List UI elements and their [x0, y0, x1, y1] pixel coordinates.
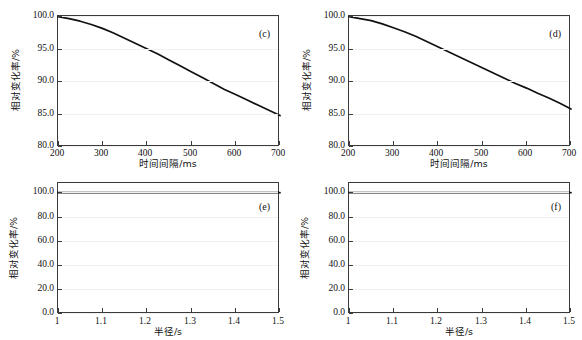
ytick-label: 20.0 [18, 283, 54, 293]
xtick-label: 1.4 [228, 316, 240, 326]
xtick-label: 1.4 [519, 316, 531, 326]
gridline-y [58, 313, 278, 314]
tick-y [58, 81, 62, 82]
gridline-y [349, 146, 569, 147]
gridline-y [349, 241, 569, 242]
xtick-label: 200 [50, 148, 64, 158]
ytick-label: 90.0 [22, 75, 54, 85]
figure-canvas: (c) 100.0 95.0 90.0 85.0 80.0 200 300 40… [0, 0, 582, 340]
gridline-y [58, 265, 278, 266]
tick-y [58, 265, 62, 266]
tick-y [349, 16, 353, 17]
yaxis-title-c: 相对变化率/% [10, 49, 21, 111]
tick-y [58, 16, 62, 17]
tick-x [191, 308, 192, 312]
ytick-label: 20.0 [309, 283, 345, 293]
panel-tag-d: (d) [549, 28, 561, 39]
tick-y [58, 49, 62, 50]
ytick-label: 100.0 [18, 186, 54, 196]
subplot-c: (c) 100.0 95.0 90.0 85.0 80.0 200 300 40… [0, 0, 291, 170]
xtick-label: 700 [271, 148, 285, 158]
xaxis-title-e: 半径/s [154, 326, 182, 337]
plot-frame-f: (f) [348, 182, 570, 313]
tick-x [279, 141, 280, 145]
tick-x [146, 141, 147, 145]
xtick-label: 500 [183, 148, 197, 158]
tick-y [58, 289, 62, 290]
tick-y [349, 313, 353, 314]
plot-frame-c: (c) [57, 15, 279, 146]
xtick-label: 300 [385, 148, 399, 158]
ytick-label: 95.0 [22, 43, 54, 53]
ytick-label: 85.0 [313, 108, 345, 118]
tick-y [349, 217, 353, 218]
tick-x [235, 308, 236, 312]
gridline-y [58, 217, 278, 218]
gridline-y [349, 265, 569, 266]
ytick-label: 95.0 [313, 43, 345, 53]
tick-x [482, 308, 483, 312]
xtick-label: 1.1 [386, 316, 398, 326]
tick-x [279, 308, 280, 312]
tick-x [102, 308, 103, 312]
ytick-label: 80.0 [309, 211, 345, 221]
subplot-d: (d) 100.0 95.0 90.0 85.0 80.0 200 300 40… [291, 0, 582, 170]
tick-x [526, 141, 527, 145]
xaxis-title-c: 时间间隔/ms [139, 158, 196, 169]
subplot-e: (e) 100.0 80.0 60.0 40.0 20.0 0.0 1 1.1 … [0, 170, 291, 340]
yaxis-title-f: 相对变化率/% [299, 217, 310, 279]
tick-x [393, 141, 394, 145]
gridline-y [349, 192, 569, 193]
xtick-label: 1.2 [139, 316, 151, 326]
gridline-y [349, 217, 569, 218]
gridline-y [58, 16, 278, 17]
ytick-label: 0.0 [309, 307, 345, 317]
tick-x [437, 141, 438, 145]
tick-x [102, 141, 103, 145]
tick-y [349, 81, 353, 82]
tick-y [349, 114, 353, 115]
ytick-label: 40.0 [309, 259, 345, 269]
gridline-y [349, 313, 569, 314]
xtick-label: 1.2 [430, 316, 442, 326]
yaxis-title-e: 相对变化率/% [8, 217, 19, 279]
ytick-label: 85.0 [22, 108, 54, 118]
curve-f [349, 183, 571, 314]
tick-x [191, 141, 192, 145]
tick-x [235, 141, 236, 145]
ytick-label: 100.0 [309, 186, 345, 196]
xaxis-title-d: 时间间隔/ms [430, 158, 487, 169]
ytick-label: 90.0 [313, 75, 345, 85]
tick-x [570, 141, 571, 145]
panel-tag-f: (f) [551, 201, 561, 212]
tick-y [58, 217, 62, 218]
tick-x [570, 308, 571, 312]
xtick-label: 400 [138, 148, 152, 158]
plot-frame-e: (e) [57, 182, 279, 313]
gridline-y [58, 146, 278, 147]
gridline-y [349, 81, 569, 82]
tick-y [349, 241, 353, 242]
tick-x [58, 141, 59, 145]
ytick-label: 40.0 [18, 259, 54, 269]
tick-y [58, 313, 62, 314]
yaxis-title-d: 相对变化率/% [301, 49, 312, 111]
xtick-label: 1.3 [475, 316, 487, 326]
xaxis-title-f: 半径/s [445, 326, 473, 337]
tick-y [58, 192, 62, 193]
gridline-y [349, 289, 569, 290]
curve-e [58, 183, 280, 314]
gridline-y [58, 49, 278, 50]
tick-y [349, 146, 353, 147]
ytick-label: 60.0 [309, 235, 345, 245]
gridline-y [58, 114, 278, 115]
gridline-y [349, 114, 569, 115]
xtick-label: 1.5 [563, 316, 575, 326]
panel-tag-e: (e) [259, 201, 270, 212]
xtick-label: 1 [55, 316, 60, 326]
tick-y [349, 192, 353, 193]
xtick-label: 1.3 [184, 316, 196, 326]
tick-x [482, 141, 483, 145]
tick-x [349, 308, 350, 312]
tick-x [146, 308, 147, 312]
